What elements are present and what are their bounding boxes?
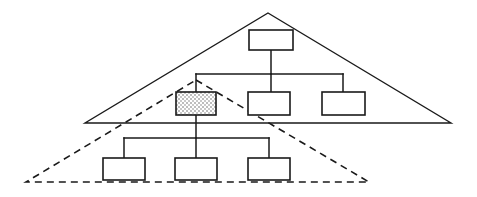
- hierarchy-scope-diagram: [0, 0, 477, 197]
- node-child-b[interactable]: [248, 92, 290, 115]
- node-rect-grandchild-c[interactable]: [248, 158, 290, 180]
- node-rect-root[interactable]: [249, 30, 293, 50]
- node-child-c[interactable]: [322, 92, 365, 115]
- node-rect-child-a[interactable]: [176, 92, 216, 115]
- node-grandchild-b[interactable]: [175, 158, 217, 180]
- node-grandchild-c[interactable]: [248, 158, 290, 180]
- node-grandchild-a[interactable]: [103, 158, 145, 180]
- node-rect-grandchild-b[interactable]: [175, 158, 217, 180]
- scope-triangles: [26, 13, 451, 182]
- diagram-canvas: [0, 0, 477, 197]
- node-rect-child-b[interactable]: [248, 92, 290, 115]
- node-boxes: [103, 30, 365, 180]
- node-rect-child-c[interactable]: [322, 92, 365, 115]
- node-rect-grandchild-a[interactable]: [103, 158, 145, 180]
- node-child-a[interactable]: [176, 92, 216, 115]
- node-root[interactable]: [249, 30, 293, 50]
